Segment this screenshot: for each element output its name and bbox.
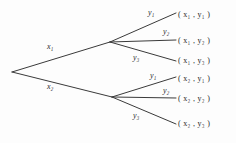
- edge-x1-to-y2: [110, 40, 176, 42]
- edge-label-upper-y1: y₁: [148, 9, 154, 17]
- leaf-label-x2-y1: ( x₂ , y₁ ): [178, 75, 210, 83]
- edge-label-x1: x₁: [47, 43, 53, 51]
- edge-root-to-x1: [12, 42, 110, 72]
- edge-x2-to-y2: [112, 97, 176, 98]
- tree-diagram: x₁ x₂ y₁ y₂ y₃ y₁ y₂ y₃ ( x₁ , y₁ ) ( x₁…: [0, 0, 236, 143]
- edge-x2-to-y3: [112, 97, 176, 124]
- edge-label-upper-y3: y₃: [133, 54, 139, 62]
- leaf-label-x2-y2: ( x₂ , y₂ ): [178, 95, 210, 103]
- leaf-label-x1-y1: ( x₁ , y₁ ): [178, 11, 210, 19]
- leaf-label-x1-y2: ( x₁ , y₂ ): [178, 37, 210, 45]
- leaf-label-x2-y3: ( x₂ , y₃ ): [178, 120, 210, 128]
- edge-root-to-x2: [12, 72, 112, 97]
- edge-label-lower-y1: y₁: [150, 72, 156, 80]
- leaf-label-x1-y3: ( x₁ , y₃ ): [178, 57, 210, 65]
- edge-label-lower-y2: y₂: [163, 87, 169, 95]
- edge-x1-to-y3: [110, 42, 176, 61]
- edge-label-upper-y2: y₂: [163, 28, 169, 36]
- edge-label-x2: x₂: [47, 83, 53, 91]
- edge-label-lower-y3: y₃: [133, 112, 139, 120]
